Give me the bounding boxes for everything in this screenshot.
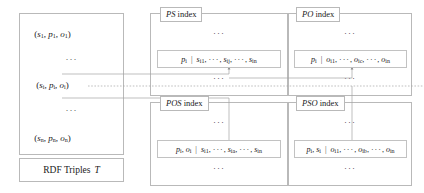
pos-index-entry: pi, oi | si1, ···, sia, ···, sin	[157, 140, 281, 158]
po-index-entry: pi | oi1, ···, oic, ···, oin	[294, 50, 407, 68]
ps-index-entry-separator: |	[190, 55, 197, 64]
po-index-entry-key: pi	[311, 55, 320, 64]
pso-index-title-rest: index	[318, 98, 339, 108]
po-index-entry-separator: |	[320, 55, 327, 64]
pos-index-entry-separator: |	[194, 145, 201, 154]
wire-po-index	[62, 68, 352, 78]
ps-index-entry-key: pi	[181, 55, 190, 64]
pos-index-entry-values: si1, ···, sia, ···, sin	[201, 145, 262, 154]
pso-index-entry-separator: |	[324, 145, 331, 154]
pos-index-title-italic: POS	[166, 98, 182, 108]
wire-ps-index	[62, 68, 229, 74]
pso-index-entry-values: oi1, ···, oib, ···, oin	[331, 145, 395, 154]
pos-index-title-rest: index	[182, 98, 203, 108]
pos-index-title: POS index	[160, 96, 209, 111]
po-index-title-rest: index	[313, 9, 334, 19]
diagram-canvas: (s1, p1, o1) ··· (si, pi, oi) ··· (sn, p…	[0, 0, 424, 193]
pso-index-entry: pi, si | oi1, ···, oib, ···, oin	[294, 140, 407, 158]
pso-index-title-italic: PSO	[302, 98, 318, 108]
pso-index-title: PSO index	[296, 96, 345, 111]
pos-index-entry-key: pi, oi	[176, 145, 194, 154]
pso-index-entry-key: pi, si	[306, 145, 323, 154]
po-index-title-italic: PO	[302, 9, 313, 19]
ps-index-title: PS index	[160, 7, 202, 22]
po-index-title: PO index	[296, 7, 340, 22]
connector-layer	[0, 0, 424, 193]
ps-index-title-rest: index	[175, 9, 196, 19]
ps-index-entry: pi | si1, ···, sij, ···, sin	[157, 50, 281, 68]
po-index-entry-values: oi1, ···, oic, ···, oin	[326, 55, 390, 64]
ps-index-entry-values: si1, ···, sij, ···, sin	[197, 55, 257, 64]
